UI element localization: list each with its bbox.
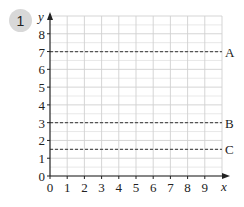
y-tick-label: 6 <box>39 62 46 77</box>
grid <box>50 16 222 176</box>
y-tick-label: 8 <box>39 27 46 42</box>
y-tick-label: 3 <box>39 116 46 131</box>
x-tick-label: 6 <box>150 180 157 195</box>
x-tick-label: 9 <box>202 180 209 195</box>
x-axis-label: x <box>220 179 227 194</box>
y-tick-label: 7 <box>39 45 46 60</box>
y-tick-label: 4 <box>39 98 46 113</box>
x-tick-label: 2 <box>81 180 88 195</box>
chart: ABC yx 0123456789012345678 <box>0 0 244 207</box>
x-tick-label: 8 <box>184 180 191 195</box>
axes: yx <box>36 9 230 194</box>
y-tick-label: 5 <box>39 80 46 95</box>
y-tick-label: 2 <box>39 133 46 148</box>
x-tick-label: 3 <box>98 180 105 195</box>
x-tick-label: 0 <box>47 180 54 195</box>
x-tick-label: 1 <box>64 180 71 195</box>
line-label-c: C <box>225 142 234 157</box>
y-axis-label: y <box>36 9 44 24</box>
x-tick-label: 7 <box>167 180 174 195</box>
y-tick-label: 0 <box>39 169 46 184</box>
y-tick-label: 1 <box>39 151 46 166</box>
x-tick-label: 4 <box>116 180 123 195</box>
line-label-a: A <box>225 45 235 60</box>
line-label-b: B <box>225 116 234 131</box>
x-tick-label: 5 <box>133 180 140 195</box>
